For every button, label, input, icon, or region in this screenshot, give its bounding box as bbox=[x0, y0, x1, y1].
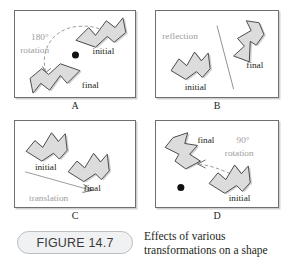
panel-letter-d: D bbox=[197, 210, 237, 221]
annotation-type-c: translation bbox=[29, 193, 68, 203]
initial-shape-c bbox=[26, 133, 67, 161]
figure-number-badge: FIGURE 14.7 bbox=[17, 231, 133, 254]
panel-a-diagram: 180° rotation initial final bbox=[15, 11, 135, 97]
annotation-type-b: reflection bbox=[162, 31, 198, 41]
caption-line-2: transformations on a shape bbox=[144, 243, 294, 257]
final-shape-b bbox=[234, 21, 264, 62]
annotation-angle-a: 180° bbox=[31, 32, 49, 42]
figure-14-7: 180° rotation initial final reflection i… bbox=[0, 0, 294, 270]
initial-shape-b bbox=[171, 52, 210, 79]
label-final-a: final bbox=[82, 80, 99, 90]
label-initial-a: initial bbox=[93, 46, 115, 56]
panel-letter-c: C bbox=[55, 210, 95, 221]
panel-c-diagram: initial final translation bbox=[15, 121, 135, 207]
figure-number-label: FIGURE 14.7 bbox=[36, 236, 113, 250]
panel-a-rotation-180: 180° rotation initial final bbox=[14, 10, 136, 98]
label-initial-d: initial bbox=[229, 193, 251, 203]
rotation-center-dot bbox=[72, 51, 79, 58]
annotation-type-a: rotation bbox=[20, 45, 49, 55]
panel-letter-b: B bbox=[197, 100, 237, 111]
label-final-d: final bbox=[197, 135, 214, 145]
annotation-type-d: rotation bbox=[225, 148, 254, 158]
annotation-angle-d: 90° bbox=[237, 135, 250, 145]
panel-c-translation: initial final translation bbox=[14, 120, 136, 208]
figure-caption-row: FIGURE 14.7 Effects of various transform… bbox=[0, 228, 294, 270]
mirror-line-icon bbox=[217, 26, 234, 90]
rotation-center-dot-d bbox=[177, 184, 184, 191]
label-initial-c: initial bbox=[35, 162, 57, 172]
panel-grid: 180° rotation initial final reflection i… bbox=[0, 0, 294, 225]
figure-caption-text: Effects of various transformations on a … bbox=[144, 229, 294, 257]
initial-shape-d bbox=[209, 165, 250, 193]
label-final-b: final bbox=[246, 60, 263, 70]
final-shape-c bbox=[68, 153, 109, 181]
panel-letter-a: A bbox=[55, 100, 95, 111]
label-initial-b: initial bbox=[185, 82, 207, 92]
panel-b-reflection: reflection initial final bbox=[155, 10, 279, 98]
panel-d-diagram: final 90° rotation initial bbox=[156, 121, 278, 207]
label-final-c: final bbox=[84, 183, 101, 193]
initial-shape-a bbox=[76, 18, 126, 47]
panel-b-diagram: reflection initial final bbox=[156, 11, 278, 97]
panel-d-rotation-90: final 90° rotation initial bbox=[155, 120, 279, 208]
caption-line-1: Effects of various bbox=[144, 229, 294, 243]
